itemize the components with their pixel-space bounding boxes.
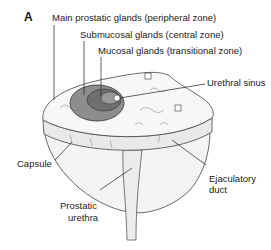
- duct-opening-1: [145, 73, 151, 79]
- panel-letter: A: [24, 10, 33, 24]
- label-ejaculatory-duct-2: duct: [209, 184, 227, 195]
- duct-opening-2: [175, 105, 181, 111]
- label-main-prostatic-glands: Main prostatic glands (peripheral zone): [52, 12, 216, 23]
- label-prostatic-urethra-2: urethra: [68, 212, 98, 223]
- label-prostatic-urethra-1: Prostatic: [60, 200, 97, 211]
- label-ejaculatory-duct-1: Ejaculatory: [209, 173, 256, 184]
- label-submucosal-glands: Submucosal glands (central zone): [80, 29, 224, 40]
- top-surface: [43, 72, 214, 136]
- urethra-opening: [114, 95, 120, 101]
- label-urethral-sinus: Urethral sinus: [207, 77, 266, 88]
- label-mucosal-glands: Mucosal glands (transitional zone): [98, 45, 242, 56]
- label-capsule: Capsule: [17, 158, 52, 169]
